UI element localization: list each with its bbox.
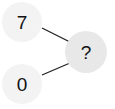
node-result-label: ? <box>81 43 92 62</box>
edge-bottom-to-result <box>42 63 70 75</box>
diagram-canvas: 7 0 ? <box>0 0 115 109</box>
node-top: 7 <box>2 2 42 42</box>
node-bottom: 0 <box>2 64 42 104</box>
node-bottom-label: 0 <box>17 75 28 94</box>
node-result: ? <box>65 31 107 73</box>
edge-top-to-result <box>42 28 70 42</box>
node-top-label: 7 <box>17 13 28 32</box>
